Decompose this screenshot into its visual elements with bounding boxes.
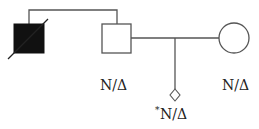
pedigree-chart: N/Δ N/Δ * N/Δ xyxy=(0,0,259,129)
affected-deceased-male-symbol xyxy=(8,19,48,59)
parent-child-line xyxy=(29,10,117,24)
mother-genotype-label: N/Δ xyxy=(222,77,249,93)
unaffected-female-symbol xyxy=(219,23,249,53)
unaffected-male-symbol xyxy=(102,24,131,53)
fetus-diamond-symbol xyxy=(170,89,180,101)
fetus-genotype-label: N/Δ xyxy=(160,106,187,122)
father-genotype-label: N/Δ xyxy=(100,77,127,93)
